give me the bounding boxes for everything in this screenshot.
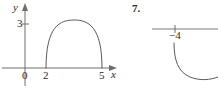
x-axis-label: x — [111, 69, 116, 80]
math-figure: y 3 0 2 5 x 7. −4 — [0, 0, 218, 94]
y-axis-arrow-icon — [22, 3, 28, 11]
number-line-graphic — [120, 0, 218, 94]
number-line-panel: 7. −4 — [120, 0, 218, 94]
y-axis-label: y — [13, 2, 18, 13]
tick-label-negative-4: −4 — [169, 30, 181, 41]
parabola-arch-curve — [46, 20, 102, 68]
origin-label: 0 — [22, 70, 28, 81]
coordinate-plane-panel: y 3 0 2 5 x — [0, 0, 120, 94]
x-tick-label-5: 5 — [99, 70, 105, 81]
x-tick-label-2: 2 — [43, 70, 49, 81]
y-tick-label-3: 3 — [17, 18, 23, 29]
descending-curve — [174, 43, 218, 80]
